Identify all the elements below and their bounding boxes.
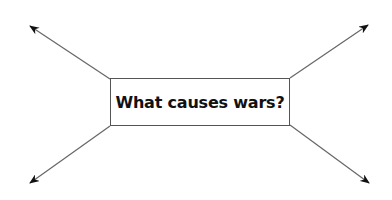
central-question-box: What causes wars? [110,78,290,126]
spider-diagram: What causes wars? [0,0,392,200]
arrow-bottom-left [30,126,110,183]
arrow-top-right [290,25,368,78]
central-question-label: What causes wars? [115,93,284,112]
arrow-bottom-right [290,125,369,183]
arrow-top-left [30,26,110,79]
